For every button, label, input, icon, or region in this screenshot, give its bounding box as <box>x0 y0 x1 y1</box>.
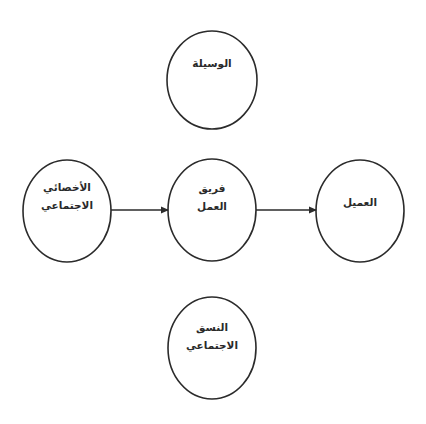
diagram-canvas: الوسيلة الأخصائي الاجتماعي فريق العمل ال… <box>0 0 426 424</box>
node-social-system-line-2: الاجتماعي <box>172 336 252 354</box>
node-social-worker-line-2: الاجتماعي <box>27 196 107 214</box>
node-means-circle <box>167 31 257 129</box>
node-social-system-label: النسق الاجتماعي <box>172 318 252 354</box>
node-means-line-1: الوسيلة <box>172 54 252 72</box>
node-team-line-1: فريق <box>172 179 252 197</box>
node-social-worker-label: الأخصائي الاجتماعي <box>27 178 107 214</box>
node-social-system-line-1: النسق <box>172 318 252 336</box>
node-social-worker-line-1: الأخصائي <box>27 178 107 196</box>
node-client-line-1: العميل <box>320 193 400 211</box>
node-team-label: فريق العمل <box>172 179 252 215</box>
node-means-label: الوسيلة <box>172 54 252 72</box>
node-team-line-2: العمل <box>172 197 252 215</box>
node-client-circle <box>316 160 404 262</box>
node-client-label: العميل <box>320 193 400 211</box>
